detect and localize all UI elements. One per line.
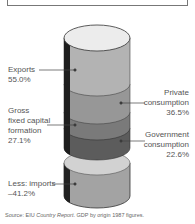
exports-label: Exports 55.0% (8, 65, 35, 85)
source-note: Source: EIU Country Report. GDP by origi… (5, 212, 144, 218)
private-consumption-label: Private consumption 36.5% (144, 88, 189, 118)
imports-label: Less: imports –41.2% (8, 179, 56, 199)
gfcf-label: Gross fixed capital formation 27.1% (8, 106, 50, 146)
government-consumption-label: Government consumption 22.6% (144, 130, 189, 160)
